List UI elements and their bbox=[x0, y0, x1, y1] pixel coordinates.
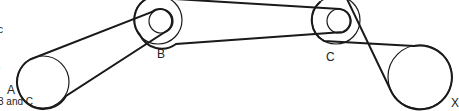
label-b: B bbox=[157, 47, 165, 61]
label-x: X bbox=[451, 96, 459, 110]
label-a: A bbox=[7, 83, 15, 97]
belt-b-c bbox=[134, 0, 350, 49]
label-c: C bbox=[326, 50, 335, 64]
